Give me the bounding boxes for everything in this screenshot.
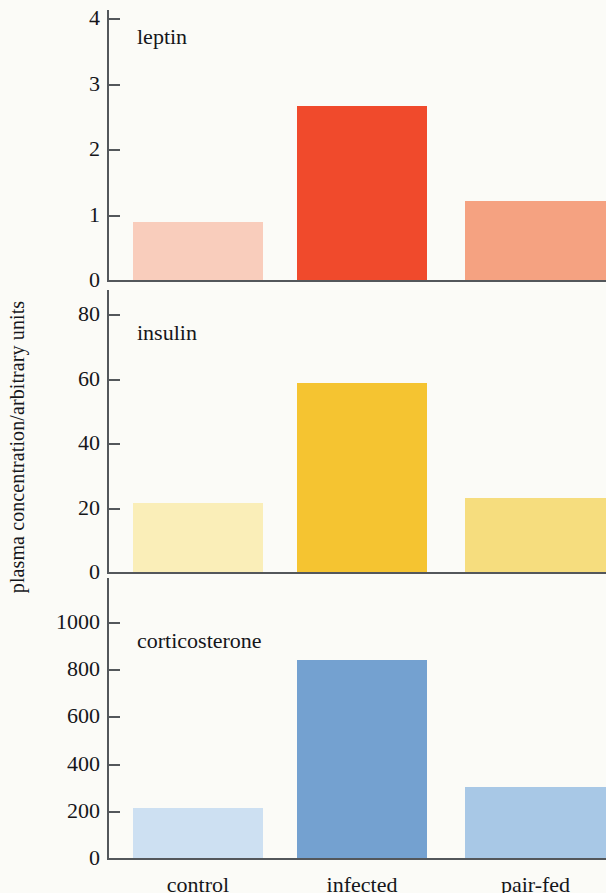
y-axis-title: plasma concentration/arbitrary units [6, 300, 29, 592]
bar-corticosterone-control [133, 808, 263, 858]
panel-leptin: 01234 leptin [34, 10, 606, 282]
y-tick-label-leptin-0: 0 [89, 269, 100, 291]
x-axis-label-control: control [133, 872, 263, 893]
y-tick-label-corticosterone-1000: 1000 [56, 611, 100, 633]
y-tick-label-leptin-1: 1 [89, 204, 100, 226]
y-tick-corticosterone-400 [109, 764, 120, 766]
x-axis-line-leptin [107, 280, 606, 282]
bar-insulin-infected [297, 383, 427, 572]
y-tick-label-leptin-2: 2 [89, 138, 100, 160]
y-tick-corticosterone-1000 [109, 622, 120, 624]
y-tick-label-insulin-40: 40 [78, 432, 100, 454]
y-tick-label-corticosterone-200: 200 [67, 800, 100, 822]
y-tick-corticosterone-800 [109, 669, 120, 671]
y-tick-insulin-60 [109, 379, 120, 381]
panel-title-corticosterone: corticosterone [137, 628, 262, 654]
y-tick-corticosterone-200 [109, 811, 120, 813]
x-axis-line-insulin [107, 572, 606, 574]
panel-corticosterone: 02004006008001000 corticosterone [34, 578, 606, 860]
y-axis-line-leptin [107, 10, 109, 282]
plot-area-insulin: 020406080 insulin [107, 290, 606, 574]
y-tick-insulin-20 [109, 508, 120, 510]
y-tick-insulin-40 [109, 443, 120, 445]
panel-title-insulin: insulin [137, 320, 197, 346]
x-axis-label-pair-fed: pair-fed [465, 872, 606, 893]
y-tick-leptin-3 [109, 84, 120, 86]
figure-bar-chart: plasma concentration/arbitrary units 012… [0, 0, 606, 893]
y-axis-line-corticosterone [107, 578, 109, 860]
bar-leptin-control [133, 222, 263, 280]
bar-leptin-infected [297, 106, 427, 280]
bar-corticosterone-infected [297, 660, 427, 858]
y-tick-label-corticosterone-400: 400 [67, 753, 100, 775]
y-tick-label-corticosterone-800: 800 [67, 658, 100, 680]
y-axis-title-container: plasma concentration/arbitrary units [0, 0, 34, 893]
bar-insulin-pair-fed [465, 498, 606, 572]
y-tick-label-insulin-60: 60 [78, 368, 100, 390]
y-tick-corticosterone-600 [109, 716, 120, 718]
y-tick-leptin-1 [109, 215, 120, 217]
panel-insulin: 020406080 insulin [34, 290, 606, 574]
x-axis-category-labels: controlinfectedpair-fed [34, 862, 606, 893]
y-tick-label-leptin-4: 4 [89, 7, 100, 29]
plot-area-corticosterone: 02004006008001000 corticosterone [107, 578, 606, 860]
y-axis-line-insulin [107, 290, 109, 574]
bar-leptin-pair-fed [465, 201, 606, 280]
x-axis-label-infected: infected [297, 872, 427, 893]
y-tick-label-corticosterone-600: 600 [67, 705, 100, 727]
x-axis-line-corticosterone [107, 858, 606, 860]
bar-corticosterone-pair-fed [465, 787, 606, 858]
bar-insulin-control [133, 503, 263, 572]
plot-area-leptin: 01234 leptin [107, 10, 606, 282]
y-tick-leptin-2 [109, 149, 120, 151]
y-tick-insulin-80 [109, 314, 120, 316]
y-tick-label-leptin-3: 3 [89, 73, 100, 95]
y-tick-label-insulin-20: 20 [78, 497, 100, 519]
panel-title-leptin: leptin [137, 24, 187, 50]
y-tick-leptin-4 [109, 18, 120, 20]
y-tick-label-insulin-80: 80 [78, 303, 100, 325]
